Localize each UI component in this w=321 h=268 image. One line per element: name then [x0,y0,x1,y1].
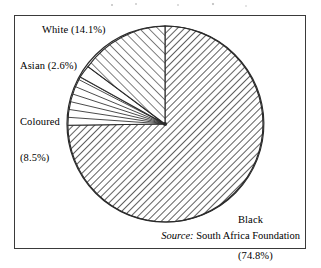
pie-label-coloured-name: Coloured [20,116,60,128]
pie-center-marker [163,122,167,126]
pie-label-black-value: (74.8%) [238,250,273,262]
source-label: Source: [161,230,193,241]
pie-label-asian: Asian (2.6%) [20,60,77,72]
source-attribution: Source: South Africa Foundation [152,230,300,241]
pie-label-white: White (14.1%) [42,24,106,36]
source-name: South Africa Foundation [194,230,300,241]
pie-label-black-name: Black [238,214,273,226]
pie-label-coloured: Coloured (8.5%) [20,92,60,176]
pie-label-coloured-value: (8.5%) [20,152,60,164]
pie-label-black: Black (74.8%) [238,190,273,268]
